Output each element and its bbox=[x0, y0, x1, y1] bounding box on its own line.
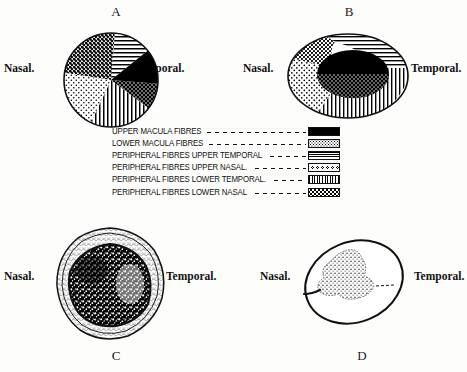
legend-row: PERIPHERAL FIBRES LOWER NASAL bbox=[112, 186, 340, 198]
legend-label: LOWER MACULA FIBRES bbox=[112, 139, 203, 148]
legend-label: PERIPHERAL FIBRES LOWER TEMPORAL. bbox=[112, 175, 266, 184]
legend-label: PERIPHERAL FIBRES UPPER NASAL. bbox=[112, 163, 247, 172]
legend-leader-dashes bbox=[270, 156, 306, 157]
legend-swatch-vertical-lines bbox=[308, 175, 340, 184]
legend-row: UPPER MACULA FIBRES bbox=[112, 125, 340, 137]
legend-swatch-crosses bbox=[308, 188, 340, 197]
legend-label: PERIPHERAL FIBRES LOWER NASAL bbox=[112, 188, 247, 197]
figure-d-temporal-label: Temporal. bbox=[414, 270, 464, 282]
legend-leader-dashes bbox=[209, 144, 306, 145]
legend-label: UPPER MACULA FIBRES bbox=[112, 127, 201, 136]
figure-a-diagram bbox=[55, 24, 167, 136]
legend: UPPER MACULA FIBRES LOWER MACULA FIBRES … bbox=[112, 125, 340, 198]
figure-d-nasal-label: Nasal. bbox=[260, 270, 290, 282]
figure-d-letter: D bbox=[350, 348, 374, 364]
legend-leader-dashes bbox=[274, 180, 306, 181]
legend-row: PERIPHERAL FIBRES UPPER NASAL. bbox=[112, 162, 340, 174]
legend-leader-dashes bbox=[207, 132, 306, 133]
figure-c-nasal-label: Nasal. bbox=[4, 270, 34, 282]
figure-a-nasal-label: Nasal. bbox=[4, 62, 34, 74]
figure-b-temporal-label: Temporal. bbox=[411, 62, 461, 74]
figure-a-letter: A bbox=[104, 4, 128, 20]
legend-row: PERIPHERAL FIBRES LOWER TEMPORAL. bbox=[112, 174, 340, 186]
figure-c-temporal-label: Temporal. bbox=[166, 270, 216, 282]
legend-swatch-horizontal-lines bbox=[308, 151, 340, 160]
figure-b-diagram bbox=[283, 24, 413, 128]
legend-swatch-solid-black bbox=[308, 127, 340, 136]
legend-row: LOWER MACULA FIBRES bbox=[112, 137, 340, 149]
legend-swatch-coarse-stipple bbox=[308, 139, 340, 148]
figure-b-nasal-label: Nasal. bbox=[243, 62, 273, 74]
legend-row: PERIPHERAL FIBRES UPPER TEMPORAL bbox=[112, 149, 340, 161]
figure-c-diagram bbox=[52, 222, 168, 346]
figure-b-letter: B bbox=[337, 4, 361, 20]
figure-c-letter: C bbox=[104, 348, 128, 364]
legend-label: PERIPHERAL FIBRES UPPER TEMPORAL bbox=[112, 151, 262, 160]
figure-d-diagram bbox=[294, 228, 414, 340]
legend-leader-dashes bbox=[255, 168, 306, 169]
legend-swatch-small-circles bbox=[308, 163, 340, 172]
legend-leader-dashes bbox=[255, 193, 307, 194]
